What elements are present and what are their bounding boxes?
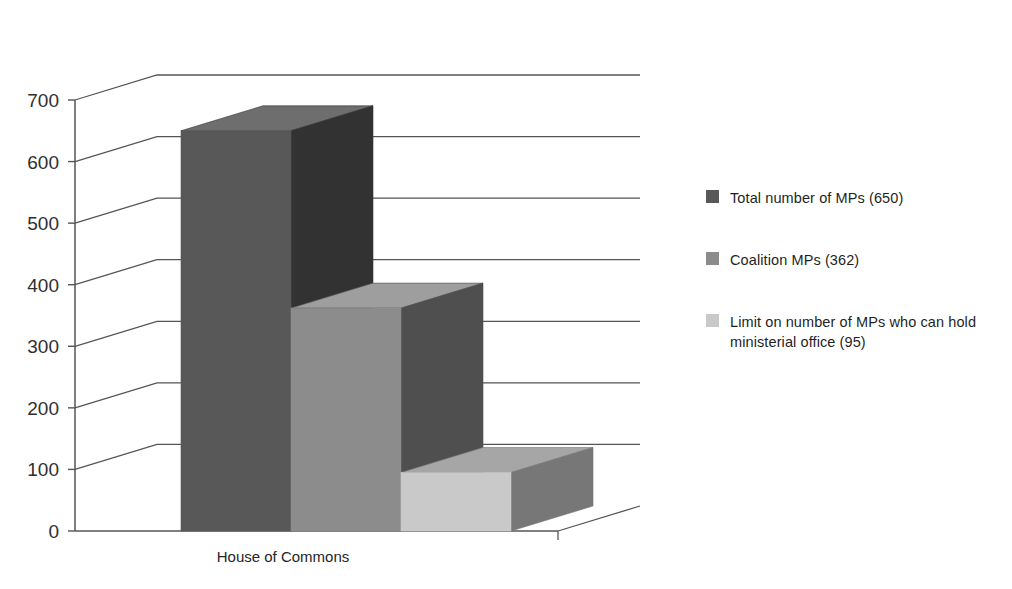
y-tick-label-300: 300 xyxy=(27,336,59,357)
legend-label: Limit on number of MPs who can hold mini… xyxy=(730,312,1006,352)
bar-front-face xyxy=(181,131,291,531)
bar-front-face xyxy=(401,473,511,531)
bar-front-face xyxy=(291,308,401,531)
legend-item-3[interactable]: Limit on number of MPs who can hold mini… xyxy=(706,312,1006,352)
legend-swatch-icon xyxy=(706,314,719,327)
legend-label: Total number of MPs (650) xyxy=(730,188,903,208)
y-tick-label-700: 700 xyxy=(27,90,59,111)
y-tick-label-600: 600 xyxy=(27,152,59,173)
y-axis-tick-labels: 7006005004003002001000 xyxy=(27,90,59,542)
legend-label: Coalition MPs (362) xyxy=(730,250,859,270)
gridline-700 xyxy=(75,75,640,100)
y-tick-label-200: 200 xyxy=(27,398,59,419)
y-tick-label-0: 0 xyxy=(48,521,59,542)
y-tick-label-500: 500 xyxy=(27,213,59,234)
y-tick-label-400: 400 xyxy=(27,275,59,296)
legend-swatch-icon xyxy=(706,190,719,203)
chart-legend: Total number of MPs (650)Coalition MPs (… xyxy=(706,188,1006,394)
category-label-house-of-commons: House of Commons xyxy=(217,548,350,565)
legend-item-1[interactable]: Total number of MPs (650) xyxy=(706,188,1006,208)
x-axis-category-label: House of Commons xyxy=(217,548,350,565)
bars-group xyxy=(181,106,593,531)
legend-item-2[interactable]: Coalition MPs (362) xyxy=(706,250,1006,270)
legend-swatch-icon xyxy=(706,252,719,265)
chart-container: 7006005004003002001000 House of Commons … xyxy=(0,0,1012,589)
y-tick-label-100: 100 xyxy=(27,459,59,480)
